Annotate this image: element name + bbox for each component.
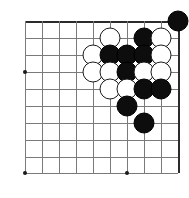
grid-line-horizontal-9 (25, 173, 178, 174)
black-stone-corner (168, 11, 189, 32)
grid-line-vertical-0 (25, 21, 26, 173)
black-stone (151, 79, 172, 100)
grid-line-horizontal-5 (25, 106, 178, 107)
grid-line-horizontal-0 (25, 21, 178, 23)
grid-line-horizontal-8 (25, 157, 178, 158)
grid-line-vertical-9 (178, 21, 180, 173)
black-stone (134, 113, 155, 134)
grid-line-vertical-1 (42, 21, 43, 173)
star-bottom-center-icon (125, 171, 129, 175)
grid-line-horizontal-6 (25, 123, 178, 124)
grid-line-vertical-3 (76, 21, 77, 173)
grid-line-horizontal-7 (25, 140, 178, 141)
grid-line-vertical-2 (59, 21, 60, 173)
black-stone (117, 96, 138, 117)
star-bottom-left-icon (23, 171, 27, 175)
go-board-diagram (0, 0, 189, 198)
star-left-icon (23, 70, 27, 74)
